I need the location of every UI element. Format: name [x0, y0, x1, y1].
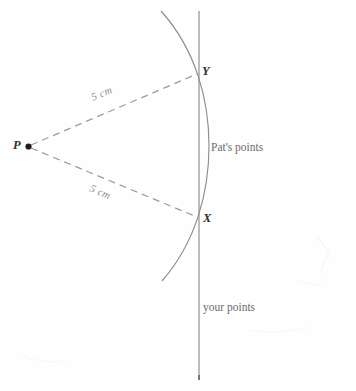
- point-p-label: P: [13, 139, 21, 152]
- pats-points-label: Pat's points: [211, 142, 263, 154]
- point-y-label: Y: [202, 65, 210, 78]
- geometry-figure: [0, 0, 356, 391]
- your-points-label: your points: [203, 302, 255, 314]
- arc-pats-points: [161, 11, 209, 281]
- radius-line-upper: [31, 74, 197, 145]
- point-x-label: X: [203, 212, 211, 225]
- point-p-marker: [25, 143, 31, 149]
- radius-line-lower: [31, 148, 197, 217]
- scan-artifacts: [20, 236, 331, 362]
- diagram-canvas: P Y X 5 cm 5 cm Pat's points your points: [0, 0, 356, 391]
